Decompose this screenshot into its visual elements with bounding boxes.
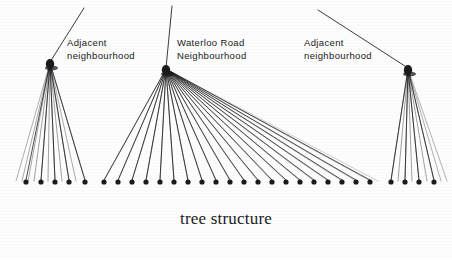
apex-node-cluster: [161, 71, 174, 76]
leaf-node: [143, 179, 148, 184]
tree-branch: [166, 69, 314, 180]
label-right-line1: Adjacent: [304, 37, 344, 48]
tree-branch: [41, 63, 50, 180]
tree-branch: [166, 69, 356, 180]
leaf-node: [115, 179, 120, 184]
leaf-node: [171, 179, 176, 184]
figure-canvas: Adjacentneighbourhood Waterloo RoadNeigh…: [0, 0, 452, 260]
leaf-node: [283, 179, 288, 184]
leaf-node: [255, 179, 260, 184]
tree-branch: [50, 63, 85, 180]
tree-branch: [408, 69, 434, 180]
leaf-node: [269, 179, 274, 184]
leaf-node: [38, 179, 43, 184]
tree-branch: [166, 69, 328, 180]
leaf-node: [416, 179, 421, 184]
tree-branch: [166, 69, 258, 180]
tree-branch: [166, 69, 342, 180]
leaf-node: [367, 179, 372, 184]
label-left-line1: Adjacent: [67, 37, 107, 48]
tree-branch: [166, 69, 272, 180]
leaf-node: [66, 179, 71, 184]
trunk-line: [166, 6, 172, 68]
label-right-adjacent-neighbourhood: Adjacentneighbourhood: [304, 37, 372, 62]
tree-branch: [118, 69, 166, 180]
leaf-node: [297, 179, 302, 184]
label-left-adjacent-neighbourhood: Adjacentneighbourhood: [67, 37, 135, 62]
label-right-line2: neighbourhood: [304, 50, 372, 63]
fan-branch: [16, 63, 50, 181]
leaf-node: [157, 179, 162, 184]
branch-lines-layer: [16, 63, 447, 181]
tree-branch: [26, 63, 50, 180]
fan-branch: [408, 69, 441, 181]
leaf-node: [23, 179, 28, 184]
tree-branch: [166, 69, 174, 180]
leaf-node: [227, 179, 232, 184]
label-left-line2: neighbourhood: [67, 50, 135, 63]
leaf-node: [82, 179, 87, 184]
apex-node-cluster: [45, 65, 58, 70]
tree-branch: [166, 69, 300, 180]
leaf-node: [129, 179, 134, 184]
leaf-node: [353, 179, 358, 184]
label-middle-line1: Waterloo Road: [177, 37, 245, 48]
tree-branch: [104, 69, 166, 180]
label-middle-line2: Neighbourhood: [177, 50, 247, 63]
leaf-node: [52, 179, 57, 184]
leaf-node: [311, 179, 316, 184]
leaf-nodes-layer: [23, 179, 436, 184]
leaf-node: [199, 179, 204, 184]
figure-caption: tree structure: [0, 209, 452, 229]
leaf-node: [101, 179, 106, 184]
leaf-node: [241, 179, 246, 184]
tree-branch: [166, 69, 188, 180]
leaf-node: [185, 179, 190, 184]
apex-node-cluster: [403, 71, 416, 76]
label-waterloo-road-neighbourhood: Waterloo RoadNeighbourhood: [177, 37, 247, 62]
leaf-node: [431, 179, 436, 184]
leaf-node: [213, 179, 218, 184]
leaf-node: [339, 179, 344, 184]
fan-branch: [50, 63, 62, 181]
leaf-node: [388, 179, 393, 184]
leaf-node: [325, 179, 330, 184]
leaf-node: [402, 179, 407, 184]
